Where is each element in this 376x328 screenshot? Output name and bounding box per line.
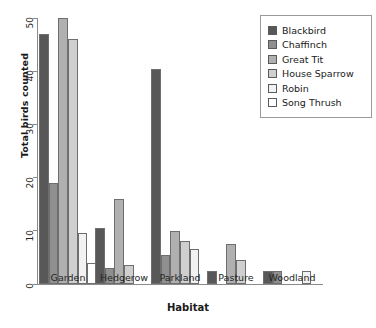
legend-item-label: House Sparrow: [282, 69, 354, 79]
legend-swatch-icon: [268, 84, 277, 93]
legend-swatch-icon: [268, 55, 277, 64]
legend-item: Great Tit: [268, 52, 365, 67]
bar: [39, 34, 49, 284]
y-axis-tick-label: 10: [25, 230, 35, 254]
legend-swatch-icon: [268, 98, 277, 107]
y-axis-tick-label: 40: [25, 70, 35, 94]
x-axis-tick-label: Woodland: [264, 272, 320, 283]
legend-item-label: Blackbird: [282, 26, 326, 36]
bar-chart-figure: Total birds counted 01020304050 Habitat …: [0, 0, 376, 328]
legend-item-label: Great Tit: [282, 55, 323, 65]
y-axis-tick-label: 20: [25, 177, 35, 201]
x-axis-tick-label: Parkland: [152, 272, 208, 283]
y-axis-title: Total birds counted: [19, 36, 30, 176]
y-axis-tick-label: 30: [25, 123, 35, 147]
legend-item-label: Chaffinch: [282, 40, 327, 50]
legend-item: Robin: [268, 81, 365, 96]
x-axis-tick-label: Hedgerow: [96, 272, 152, 283]
bar: [151, 69, 161, 284]
x-axis-tick-label: Pasture: [208, 272, 264, 283]
legend-swatch-icon: [268, 40, 277, 49]
legend-item: House Sparrow: [268, 67, 365, 82]
bar: [68, 39, 78, 284]
bar: [49, 183, 59, 284]
legend-item: Chaffinch: [268, 38, 365, 53]
legend: BlackbirdChaffinchGreat TitHouse Sparrow…: [260, 15, 372, 118]
legend-swatch-icon: [268, 26, 277, 35]
y-axis-tick-label: 50: [25, 17, 35, 41]
legend-item: Song Thrush: [268, 96, 365, 111]
legend-item-label: Robin: [282, 84, 309, 94]
legend-item: Blackbird: [268, 23, 365, 38]
y-axis-line: [37, 18, 38, 284]
x-axis-line: [37, 284, 323, 285]
x-axis-title: Habitat: [0, 302, 376, 313]
legend-swatch-icon: [268, 69, 277, 78]
x-axis-tick-label: Garden: [40, 272, 96, 283]
bar: [58, 18, 68, 284]
legend-item-label: Song Thrush: [282, 98, 342, 108]
